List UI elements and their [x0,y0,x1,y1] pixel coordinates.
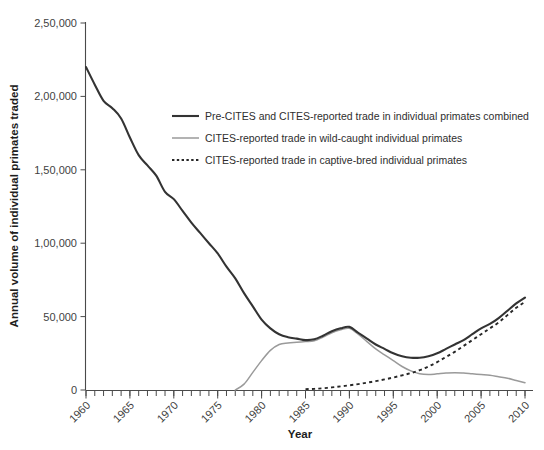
chart-figure: Annual volume of individual primates tra… [0,0,544,450]
legend-label-combined: Pre-CITES and CITES-reported trade in in… [205,110,529,122]
legend-label-wild-caught: CITES-reported trade in wild-caught indi… [205,132,462,144]
y-tick-label: 0 [71,384,77,396]
y-tick-label: 50,000 [43,311,77,323]
y-axis-title: Annual volume of individual primates tra… [8,85,20,328]
chart-background [0,0,544,450]
y-tick-label: 2,00,000 [34,90,77,102]
line-chart: Annual volume of individual primates tra… [0,0,544,450]
y-tick-label: 1,50,000 [34,164,77,176]
y-tick-label: 1,00,000 [34,237,77,249]
legend-label-captive-bred: CITES-reported trade in captive-bred ind… [205,154,467,166]
x-axis-title: Year [288,428,313,440]
y-tick-label: 2,50,000 [34,17,77,29]
